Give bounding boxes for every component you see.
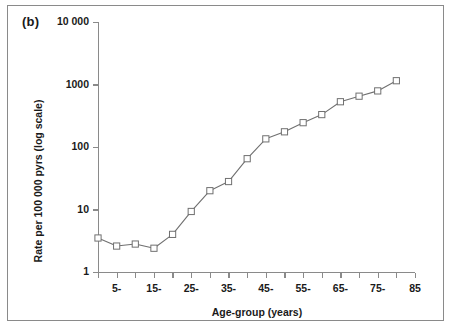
data-point-marker [393,78,399,84]
data-point-marker [356,93,362,99]
data-point-marker [169,231,175,237]
data-point-marker [207,188,213,194]
chart-svg [0,0,452,334]
data-point-marker [188,208,194,214]
data-point-marker [300,120,306,126]
data-point-marker [281,129,287,135]
data-point-marker [132,241,138,247]
data-point-marker [151,245,157,251]
chart-axes [93,22,416,278]
chart-plot-area: Rate per 100 000 pyrs (log scale) Age-gr… [0,0,452,334]
data-point-marker [337,99,343,105]
data-series-line [98,81,396,249]
figure-panel: (b) Rate per 100 000 pyrs (log scale) Ag… [0,0,452,334]
data-point-marker [375,88,381,94]
data-point-marker [244,156,250,162]
data-point-marker [95,235,101,241]
series-polyline [98,81,396,249]
data-point-marker [114,243,120,249]
data-point-marker [225,178,231,184]
data-point-marker [319,111,325,117]
data-point-marker [263,136,269,142]
data-point-markers [95,78,400,252]
